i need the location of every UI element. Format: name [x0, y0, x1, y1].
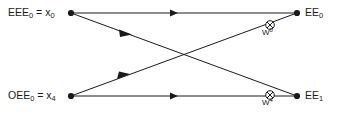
twiddle-w0-base: W: [262, 28, 270, 37]
node-out-top: [294, 10, 300, 16]
twiddle-w4-label: W4: [262, 99, 273, 107]
label-input-bottom-equals: = x: [34, 89, 51, 101]
label-output-bottom-name: EE: [305, 89, 319, 101]
twiddle-w4-base: W: [262, 98, 270, 107]
node-out-bot: [294, 93, 300, 99]
label-output-top-subscript: 0: [319, 11, 323, 20]
label-input-top: EEE0 = x0: [8, 7, 55, 18]
label-input-bottom-subscript: 0: [30, 94, 34, 103]
arrowhead-bottom-horizontal: [170, 93, 178, 100]
label-output-top: EE0: [305, 7, 323, 18]
label-input-bottom-value-subscript: 4: [52, 94, 56, 103]
twiddle-w0-label: W0: [262, 29, 273, 37]
label-output-bottom: EE1: [305, 90, 323, 101]
node-in-bot: [68, 93, 74, 99]
label-input-top-value-subscript: 0: [50, 11, 54, 20]
label-input-top-subscript: 0: [29, 11, 33, 20]
label-input-bottom-name: OEE: [8, 89, 30, 101]
node-in-top: [68, 10, 74, 16]
label-output-bottom-subscript: 1: [319, 94, 323, 103]
twiddle-w4-exponent: 4: [270, 97, 273, 103]
fft-butterfly-diagram: EEE0 = x0 OEE0 = x4 EE0 EE1 W0 W4: [0, 0, 341, 114]
arrowhead-diagonal-down: [119, 30, 132, 38]
arrowhead-top-horizontal: [170, 10, 178, 17]
label-input-bottom: OEE0 = x4: [8, 90, 56, 101]
label-input-top-equals: = x: [33, 6, 50, 18]
label-output-top-name: EE: [305, 6, 319, 18]
twiddle-w0-exponent: 0: [270, 27, 273, 33]
label-input-top-name: EEE: [8, 6, 29, 18]
